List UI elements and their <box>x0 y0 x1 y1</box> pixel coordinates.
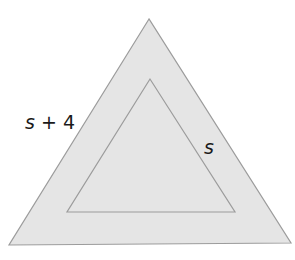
diagram-canvas: s + 4 s <box>0 0 295 260</box>
outer-label-variable: s <box>25 111 35 133</box>
inner-side-label: s <box>204 138 214 157</box>
outer-side-label: s + 4 <box>25 113 75 132</box>
inner-label-variable: s <box>204 136 214 158</box>
outer-label-expression: + 4 <box>35 111 75 133</box>
